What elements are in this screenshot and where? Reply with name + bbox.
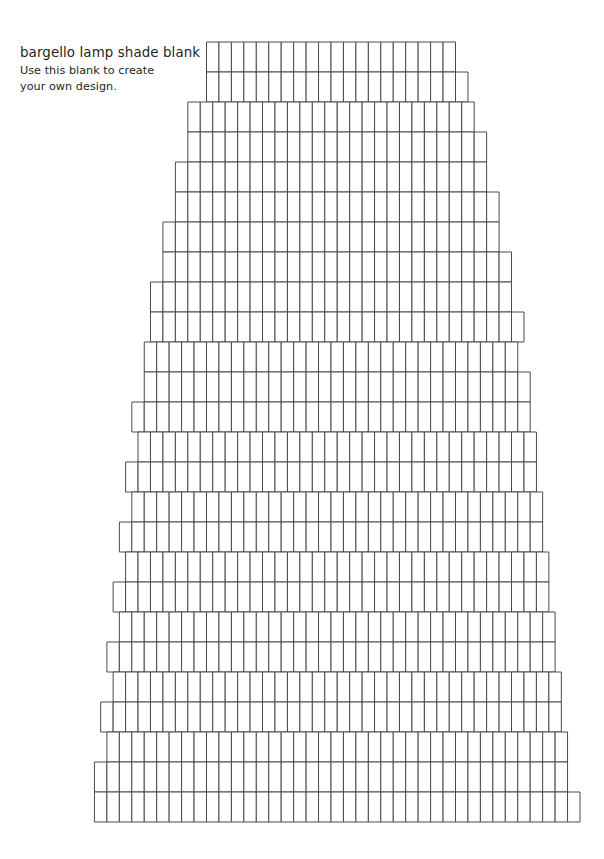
shade-cell [150, 432, 162, 462]
shade-cell [225, 252, 237, 282]
shade-cell [343, 342, 355, 372]
shade-row [113, 582, 549, 612]
shade-cell [101, 702, 113, 732]
shade-cell [518, 762, 530, 792]
shade-cell [356, 402, 368, 432]
shade-cell [412, 192, 424, 222]
shade-cell [281, 402, 293, 432]
shade-cell [157, 732, 169, 762]
shade-cell [132, 792, 144, 822]
shade-cell [524, 552, 536, 582]
shade-cell [362, 552, 374, 582]
shade-cell [207, 522, 219, 552]
shade-cell [325, 252, 337, 282]
shade-cell [362, 252, 374, 282]
shade-cell [555, 732, 567, 762]
shade-cell [275, 462, 287, 492]
shade-cell [387, 282, 399, 312]
shade-cell [213, 192, 225, 222]
shade-cell [175, 312, 187, 342]
shade-cell [207, 642, 219, 672]
shade-row [188, 102, 474, 132]
shade-cell [443, 522, 455, 552]
shade-cell [256, 342, 268, 372]
shade-cell [493, 642, 505, 672]
shade-cell [350, 702, 362, 732]
shade-cell [182, 522, 194, 552]
shade-cell [250, 282, 262, 312]
shade-cell [275, 582, 287, 612]
lamp-shade-grid [0, 0, 604, 859]
shade-cell [474, 672, 486, 702]
shade-cell [306, 492, 318, 522]
shade-cell [375, 222, 387, 252]
shade-cell [480, 762, 492, 792]
shade-cell [175, 252, 187, 282]
shade-cell [368, 72, 380, 102]
shade-cell [543, 642, 555, 672]
shade-cell [518, 732, 530, 762]
shade-cell [219, 42, 231, 72]
shade-cell [306, 372, 318, 402]
shade-cell [163, 672, 175, 702]
shade-row [163, 252, 512, 282]
shade-cell [375, 132, 387, 162]
shade-cell [319, 372, 331, 402]
shade-cell [462, 432, 474, 462]
shade-cell [263, 702, 275, 732]
shade-cell [269, 642, 281, 672]
shade-cell [238, 192, 250, 222]
shade-cell [512, 552, 524, 582]
shade-cell [238, 462, 250, 492]
shade-cell [424, 222, 436, 252]
shade-cell [368, 792, 380, 822]
shade-cell [468, 372, 480, 402]
shade-cell [138, 672, 150, 702]
shade-cell [443, 762, 455, 792]
shade-cell [275, 162, 287, 192]
shade-cell [250, 672, 262, 702]
shade-cell [194, 372, 206, 402]
shade-cell [337, 702, 349, 732]
shade-cell [536, 702, 548, 732]
shade-cell [138, 462, 150, 492]
shade-cell [250, 162, 262, 192]
shade-cell [200, 672, 212, 702]
shade-cell [250, 192, 262, 222]
shade-cell [244, 762, 256, 792]
shade-cell [182, 612, 194, 642]
shade-cell [449, 432, 461, 462]
shade-cell [294, 372, 306, 402]
shade-cell [319, 72, 331, 102]
shade-cell [468, 342, 480, 372]
shade-cell [375, 282, 387, 312]
shade-cell [244, 402, 256, 432]
shade-cell [225, 582, 237, 612]
shade-cell [474, 582, 486, 612]
shade-cell [343, 522, 355, 552]
shade-cell [499, 462, 511, 492]
shade-cell [449, 162, 461, 192]
shade-cell [244, 342, 256, 372]
shade-cell [505, 342, 517, 372]
shade-cell [456, 372, 468, 402]
shade-cell [399, 162, 411, 192]
shade-cell [188, 672, 200, 702]
shade-cell [275, 552, 287, 582]
shade-cell [406, 402, 418, 432]
shade-cell [399, 432, 411, 462]
shade-cell [263, 192, 275, 222]
shade-cell [281, 792, 293, 822]
shade-cell [213, 702, 225, 732]
shade-cell [144, 642, 156, 672]
shade-cell [281, 372, 293, 402]
shade-cell [225, 462, 237, 492]
shade-cell [312, 282, 324, 312]
shade-cell [399, 582, 411, 612]
shade-cell [269, 612, 281, 642]
shade-cell [169, 732, 181, 762]
shade-cell [312, 582, 324, 612]
shade-cell [505, 612, 517, 642]
shade-cell [393, 42, 405, 72]
shade-cell [474, 312, 486, 342]
